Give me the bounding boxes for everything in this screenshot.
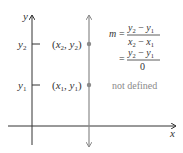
slope-formula-zero-denominator: = y2 − y1 0 xyxy=(119,47,160,72)
svg-text:m: m xyxy=(109,28,116,39)
tick-label-y1: y1 xyxy=(17,79,27,93)
tick-label-y2: y2 xyxy=(17,38,27,52)
slope-formula: m = y2 − y1 x2 − x1 xyxy=(109,22,160,48)
x-axis-label: x xyxy=(169,127,175,139)
point-label-x1-y1: (x1, y1) xyxy=(52,79,82,93)
vertical-line-slope-diagram: y x y2 y1 (x2, y2) (x1, y1) m = y2 − y1 … xyxy=(0,0,183,153)
point-label-x2-y2: (x2, y2) xyxy=(52,38,82,52)
svg-text:0: 0 xyxy=(140,61,145,72)
svg-text:(x1, y1): (x1, y1) xyxy=(52,79,82,93)
svg-text:=: = xyxy=(119,53,125,64)
svg-text:y1: y1 xyxy=(17,79,27,93)
svg-text:(x2, y2): (x2, y2) xyxy=(52,38,82,52)
point-x1-y1 xyxy=(87,83,91,87)
svg-text:=: = xyxy=(119,28,125,39)
svg-text:y2: y2 xyxy=(17,38,27,52)
point-x2-y2 xyxy=(87,42,91,46)
y-axis-label: y xyxy=(22,10,28,22)
svg-text:y2 − y1: y2 − y1 xyxy=(127,47,154,59)
svg-text:y2 − y1: y2 − y1 xyxy=(127,22,154,34)
result-not-defined: not defined xyxy=(112,80,157,91)
